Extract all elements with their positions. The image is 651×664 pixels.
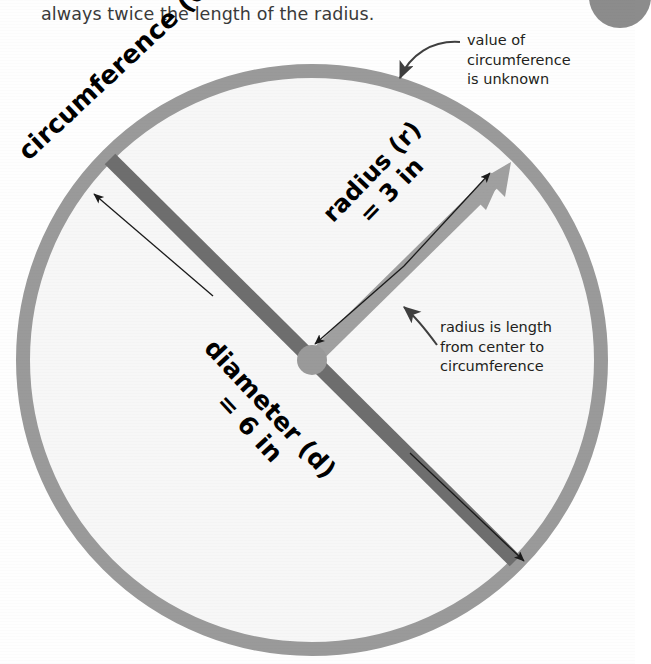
callout-radius-note: radius is length from center to circumfe…: [440, 318, 600, 377]
callout-radius-line-1: radius is length: [440, 318, 600, 338]
callout-circumference-note: value of circumference is unknown: [467, 31, 617, 90]
circumference-callout-arrow: [400, 42, 460, 78]
circle-center-hub: [297, 345, 327, 375]
callout-radius-line-3: circumference: [440, 357, 600, 377]
callout-radius-line-2: from center to: [440, 338, 600, 358]
callout-circumference-line-2: circumference: [467, 51, 617, 71]
callout-circumference-line-1: value of: [467, 31, 617, 51]
callout-circumference-line-3: is unknown: [467, 70, 617, 90]
